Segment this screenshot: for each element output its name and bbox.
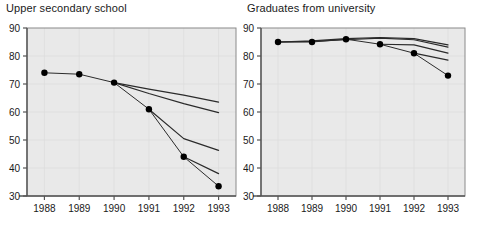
data-point-marker xyxy=(377,41,383,47)
x-tick-label: 1989 xyxy=(301,203,324,214)
x-tick-label: 1991 xyxy=(369,203,392,214)
data-point-marker xyxy=(41,70,47,76)
y-tick-label: 80 xyxy=(243,51,254,62)
x-tick-label: 1992 xyxy=(173,203,196,214)
data-point-marker xyxy=(215,183,221,189)
y-tick-label: 90 xyxy=(9,23,21,34)
x-tick-label: 1990 xyxy=(103,203,126,214)
x-tick-label: 1991 xyxy=(138,203,161,214)
y-tick-label: 40 xyxy=(243,163,254,174)
data-point-marker xyxy=(445,72,451,78)
chart-figure: Upper secondary school 30405060708090198… xyxy=(0,0,485,235)
y-tick-label: 90 xyxy=(243,23,254,34)
data-point-marker xyxy=(411,50,417,56)
x-tick-label: 1992 xyxy=(403,203,426,214)
data-point-marker xyxy=(275,39,281,45)
x-tick-label: 1988 xyxy=(267,203,290,214)
data-point-marker xyxy=(76,71,82,77)
y-tick-label: 30 xyxy=(9,191,21,202)
y-tick-label: 60 xyxy=(9,107,21,118)
data-point-marker xyxy=(343,36,349,42)
data-point-marker xyxy=(146,106,152,112)
x-tick-label: 1993 xyxy=(207,203,230,214)
data-point-marker xyxy=(181,154,187,160)
plot-area-graduates-from-university: 30405060708090198819891990199119921993 xyxy=(243,0,485,235)
plot-area-upper-secondary-school: 30405060708090198819891990199119921993 xyxy=(0,0,243,235)
y-tick-label: 30 xyxy=(243,191,254,202)
x-tick-label: 1990 xyxy=(335,203,358,214)
x-tick-label: 1989 xyxy=(68,203,91,214)
data-point-marker xyxy=(309,39,315,45)
data-point-marker xyxy=(111,79,117,85)
y-tick-label: 40 xyxy=(9,163,21,174)
y-tick-label: 70 xyxy=(243,79,254,90)
x-tick-label: 1988 xyxy=(33,203,56,214)
chart-panel-upper-secondary-school: Upper secondary school 30405060708090198… xyxy=(0,0,243,235)
x-tick-label: 1993 xyxy=(437,203,460,214)
y-tick-label: 50 xyxy=(9,135,21,146)
y-tick-label: 80 xyxy=(9,51,21,62)
chart-panel-graduates-from-university: Graduates from university 30405060708090… xyxy=(243,0,485,235)
y-tick-label: 60 xyxy=(243,107,254,118)
y-tick-label: 50 xyxy=(243,135,254,146)
y-tick-label: 70 xyxy=(9,79,21,90)
